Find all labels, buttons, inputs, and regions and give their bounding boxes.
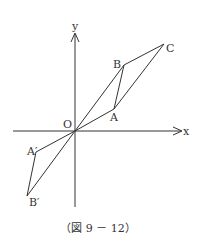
segment-OA-prime [36, 131, 75, 152]
origin-label: O [63, 118, 72, 131]
segment-OB-prime [27, 131, 75, 196]
coordinate-diagram: y x O A B C A′ B′ （図 9 － 12） [0, 0, 197, 244]
figure-9-12: y x O A B C A′ B′ （図 9 － 12） [0, 0, 197, 244]
segment-BC [124, 44, 164, 65]
point-label-A: A [109, 111, 119, 124]
point-label-A-prime: A′ [26, 145, 38, 158]
point-label-B: B [113, 58, 121, 71]
figure-caption: （図 9 － 12） [60, 222, 136, 235]
segment-OA [75, 109, 114, 131]
y-axis-label: y [71, 20, 79, 33]
point-label-B-prime: B′ [29, 196, 40, 209]
x-axis-label: x [183, 125, 190, 138]
point-label-C: C [166, 42, 174, 55]
